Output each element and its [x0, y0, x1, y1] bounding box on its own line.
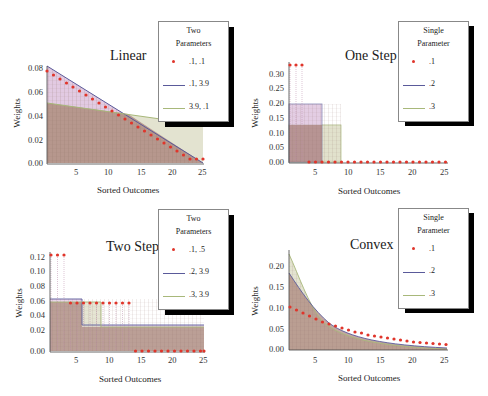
x-tick: 20 — [168, 355, 177, 365]
y-axis-label: Weights — [12, 98, 22, 127]
legend: Single Parameter .1 .2 .3 — [398, 21, 469, 122]
x-axis-label: Sorted Outcomes — [97, 185, 159, 195]
legend-title: Parameter — [399, 226, 468, 235]
x-tick: 15 — [137, 355, 146, 365]
y-tick: 0.15 — [269, 282, 284, 292]
legend-label: .1 — [429, 244, 435, 253]
legend-entry: .2 — [399, 79, 468, 91]
x-tick: 10 — [344, 167, 353, 177]
x-tick: 25 — [440, 167, 449, 177]
y-tick: 0.02 — [28, 135, 43, 145]
x-tick: 5 — [313, 355, 317, 365]
x-tick: 20 — [408, 355, 417, 365]
x-axis-label: Sorted Outcomes — [99, 374, 161, 384]
y-tick: 0.15 — [269, 113, 284, 123]
legend-label: .1, .5 — [189, 245, 205, 254]
y-tick: 0.08 — [30, 281, 45, 291]
y-axis-label: Weights — [250, 98, 260, 127]
legend-entry: .1, 3.9 — [159, 79, 228, 91]
line-marker-icon — [403, 85, 425, 86]
y-tick: 0.30 — [269, 69, 284, 79]
chart-two-step: Two Step 0.12 0.10 0.08 0.06 0.04 0.02 0… — [0, 198, 244, 396]
legend-label: .3 — [429, 289, 435, 298]
legend-entry: .1, .5 — [159, 245, 228, 257]
x-tick: 15 — [376, 167, 385, 177]
y-tick: 0.10 — [30, 266, 45, 276]
x-tick: 20 — [168, 167, 177, 177]
dot-marker-icon — [172, 248, 175, 251]
y-tick: 0.00 — [269, 344, 284, 354]
y-tick: 0.02 — [30, 325, 45, 335]
line-marker-icon — [163, 273, 185, 274]
x-axis-label: Sorted Outcomes — [338, 373, 400, 383]
line-marker-icon — [403, 108, 425, 109]
dot-marker-icon — [412, 60, 415, 63]
x-tick: 15 — [137, 167, 146, 177]
y-tick: 0.00 — [269, 157, 284, 167]
legend: Single Parameter .1 .2 .3 — [398, 208, 469, 309]
y-tick: 0.00 — [28, 158, 43, 168]
legend-title: Two — [159, 26, 228, 35]
chart-linear: Linear 0.08 0.06 0.04 0.02 0.00 5 10 15 … — [0, 0, 244, 198]
y-tick: 0.20 — [269, 261, 284, 271]
y-axis-label: Weights — [250, 286, 260, 315]
x-tick: 10 — [104, 167, 113, 177]
dot-marker-icon — [412, 247, 415, 250]
y-tick: 0.04 — [28, 111, 43, 121]
x-axis-label: Sorted Outcomes — [338, 186, 400, 196]
legend-title: Parameters — [159, 39, 228, 48]
legend-title: Single — [399, 213, 468, 222]
x-tick: 15 — [376, 355, 385, 365]
legend-label: .2 — [429, 79, 435, 88]
chart-one-step: One Step 0.30 0.25 0.20 0.15 0.10 0.05 0… — [244, 0, 488, 198]
chart-title: One Step — [345, 48, 397, 64]
line-marker-icon — [163, 108, 185, 109]
x-tick: 5 — [74, 167, 78, 177]
legend-label: .1, .1 — [189, 57, 205, 66]
legend-entry: .2 — [399, 266, 468, 278]
legend-entry: .3 — [399, 289, 468, 301]
chart-convex: Convex 0.20 0.15 0.10 0.05 0.00 5 10 15 … — [244, 198, 488, 396]
legend-entry: .1 — [399, 57, 468, 69]
legend-entry: .1, .1 — [159, 57, 228, 69]
legend-entry: .2, 3.9 — [159, 267, 228, 279]
legend-entry: .3, 3.9 — [159, 290, 228, 302]
dot-marker-icon — [172, 60, 175, 63]
y-tick: 0.20 — [269, 98, 284, 108]
line-marker-icon — [403, 272, 425, 273]
legend-label: .3 — [429, 102, 435, 111]
legend-label: 3.9, .1 — [189, 102, 209, 111]
chart-title: Two Step — [106, 239, 159, 255]
y-tick: 0.05 — [269, 142, 284, 152]
x-tick: 5 — [313, 167, 317, 177]
legend-label: .3, 3.9 — [189, 290, 209, 299]
legend-label: .1 — [429, 57, 435, 66]
legend-title: Two — [159, 214, 228, 223]
x-tick: 20 — [408, 167, 417, 177]
legend-label: .1, 3.9 — [189, 79, 209, 88]
line-marker-icon — [403, 295, 425, 296]
legend-title: Parameter — [399, 39, 468, 48]
y-tick: 0.12 — [30, 252, 45, 262]
legend: Two Parameters .1, .1 .1, 3.9 3.9, .1 — [158, 21, 229, 122]
x-tick: 25 — [440, 355, 449, 365]
legend-entry: .3 — [399, 102, 468, 114]
x-tick: 10 — [105, 355, 114, 365]
line-marker-icon — [163, 85, 185, 86]
legend-title: Parameters — [159, 227, 228, 236]
line-marker-icon — [163, 296, 185, 297]
x-tick: 25 — [199, 355, 208, 365]
legend: Two Parameters .1, .5 .2, 3.9 .3, 3.9 — [158, 209, 229, 310]
y-tick: 0.06 — [30, 296, 45, 306]
legend-title: Single — [399, 26, 468, 35]
chart-title: Convex — [350, 237, 394, 253]
y-tick: 0.25 — [269, 83, 284, 93]
x-tick: 10 — [344, 355, 353, 365]
x-tick: 5 — [74, 355, 78, 365]
legend-entry: 3.9, .1 — [159, 102, 228, 114]
x-tick: 25 — [198, 167, 207, 177]
legend-label: .2, 3.9 — [189, 267, 209, 276]
y-axis-label: Weights — [14, 288, 24, 317]
legend-entry: .1 — [399, 244, 468, 256]
y-tick: 0.00 — [30, 346, 45, 356]
